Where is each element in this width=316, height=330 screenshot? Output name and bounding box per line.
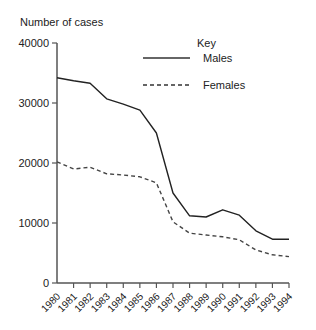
x-tick-label: 1994 xyxy=(271,290,295,314)
y-axis-label: Number of cases xyxy=(20,16,104,28)
y-tick-label: 20000 xyxy=(18,157,49,169)
legend-label-males: Males xyxy=(203,52,233,64)
legend-title: Key xyxy=(197,37,216,49)
series-line-females xyxy=(57,162,289,257)
y-tick-label: 0 xyxy=(43,277,49,289)
y-tick-label: 10000 xyxy=(18,217,49,229)
legend-label-females: Females xyxy=(203,79,246,91)
y-tick-label: 40000 xyxy=(18,37,49,49)
series-line-males xyxy=(57,78,289,239)
line-chart: Number of cases0100002000030000400001980… xyxy=(0,0,316,330)
y-tick-label: 30000 xyxy=(18,97,49,109)
